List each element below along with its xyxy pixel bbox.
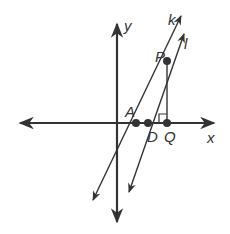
- x-axis-label: x: [206, 129, 215, 146]
- line-l-label: l: [184, 35, 188, 52]
- y-axis-label: y: [123, 17, 133, 34]
- line-k-label: k: [168, 11, 177, 28]
- line-k: [93, 16, 181, 200]
- coordinate-diagram: y x k l P A D Q: [0, 0, 230, 234]
- point-a: [132, 119, 140, 127]
- point-q: [163, 119, 171, 127]
- point-a-label: A: [124, 103, 135, 120]
- point-d: [144, 119, 152, 127]
- point-p-label: P: [155, 48, 165, 65]
- point-q-label: Q: [164, 128, 176, 145]
- point-d-label: D: [147, 128, 158, 145]
